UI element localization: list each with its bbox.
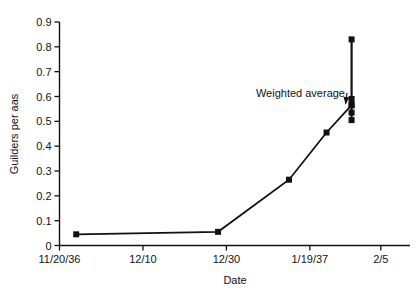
x-tick-label: 2/5 [373,253,388,265]
x-axis-ticks [60,246,381,251]
y-tick-label: 0 [45,240,51,252]
scatter-marker [349,36,355,42]
x-tick-label: 12/10 [129,253,157,265]
x-tick-label: 11/20/36 [38,253,80,265]
y-tick-label: 0.6 [36,91,51,103]
annotation-weighted-average: Weighted average [256,87,350,104]
series-markers [73,102,354,237]
annotation-arrowhead [343,97,349,104]
y-tick-label: 0.2 [36,190,51,202]
x-tick-label: 1/19/37 [292,253,329,265]
y-axis-title: Guilders per aas [8,93,20,174]
tulip-price-line-chart: 00.10.20.30.40.50.60.70.80.9 11/20/3612/… [0,0,418,294]
y-tick-label: 0.8 [36,41,51,53]
y-tick-label: 0.1 [36,215,51,227]
y-tick-label: 0.3 [36,165,51,177]
series-marker [286,177,292,183]
y-tick-label: 0.5 [36,115,51,127]
annotation-label: Weighted average [256,87,345,99]
x-tick-label: 12/30 [213,253,241,265]
scatter-marker [349,102,355,108]
y-tick-label: 0.9 [36,16,51,28]
scatter-marker [349,110,355,116]
chart-figure: 00.10.20.30.40.50.60.70.80.9 11/20/3612/… [0,0,418,294]
y-axis-tick-labels: 00.10.20.30.40.50.60.70.80.9 [36,16,51,252]
y-tick-label: 0.4 [36,140,51,152]
series-marker [324,130,330,136]
y-tick-label: 0.7 [36,66,51,78]
series-marker [73,231,79,237]
series-line-weighted-average [76,105,351,234]
x-axis-title: Date [223,274,246,286]
series-marker [215,229,221,235]
scatter-marker [349,96,355,102]
scatter-marker [349,117,355,123]
y-axis-ticks [55,22,60,246]
x-axis-tick-labels: 11/20/3612/1012/301/19/372/5 [38,253,388,265]
